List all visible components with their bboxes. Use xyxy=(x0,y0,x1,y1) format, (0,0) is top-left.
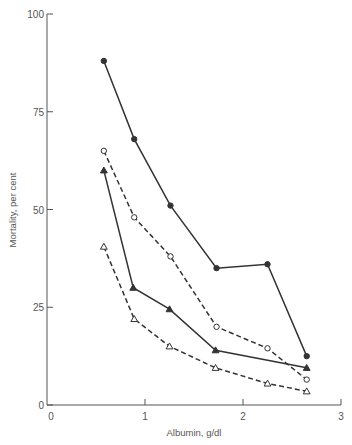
x-axis-label: Albumin, g/dl xyxy=(167,427,222,438)
y-tick-label: 25 xyxy=(33,302,45,313)
x-tick-label: 1 xyxy=(142,411,148,422)
open-circle-marker xyxy=(168,254,173,259)
series-line xyxy=(104,170,307,367)
filled-circle-marker xyxy=(214,265,219,270)
open-circle-marker xyxy=(214,324,219,329)
y-tick-label: 50 xyxy=(33,205,45,216)
line-chart: 02550751000123 Albumin, g/dl Mortality, … xyxy=(0,0,352,445)
filled-circle-marker xyxy=(304,353,309,358)
series-line xyxy=(104,61,307,356)
axes: 02550751000123 xyxy=(27,9,344,422)
series-open-circle-dashed xyxy=(101,148,309,382)
y-axis-label: Mortality, per cent xyxy=(7,172,18,247)
filled-triangle-marker xyxy=(130,284,137,290)
filled-circle-marker xyxy=(168,203,173,208)
x-tick-label: 2 xyxy=(240,411,246,422)
x-tick-label: 0 xyxy=(48,411,54,422)
open-triangle-marker xyxy=(100,243,107,249)
y-tick-label: 100 xyxy=(27,9,44,20)
open-circle-marker xyxy=(101,148,106,153)
open-circle-marker xyxy=(132,215,137,220)
open-triangle-marker xyxy=(131,316,138,322)
open-circle-marker xyxy=(265,346,270,351)
series-group xyxy=(100,58,310,394)
series-open-triangle-dashed xyxy=(100,243,310,394)
y-tick-label: 75 xyxy=(33,107,45,118)
filled-circle-marker xyxy=(265,262,270,267)
open-triangle-marker xyxy=(166,343,173,349)
filled-circle-marker xyxy=(132,136,137,141)
open-circle-marker xyxy=(304,377,309,382)
x-tick-label: 3 xyxy=(338,411,344,422)
filled-triangle-marker xyxy=(166,306,173,312)
filled-circle-marker xyxy=(101,58,106,63)
y-tick-label: 0 xyxy=(38,400,44,411)
filled-triangle-marker xyxy=(100,167,107,173)
series-filled-triangle-solid xyxy=(100,167,310,370)
series-line xyxy=(104,151,307,380)
